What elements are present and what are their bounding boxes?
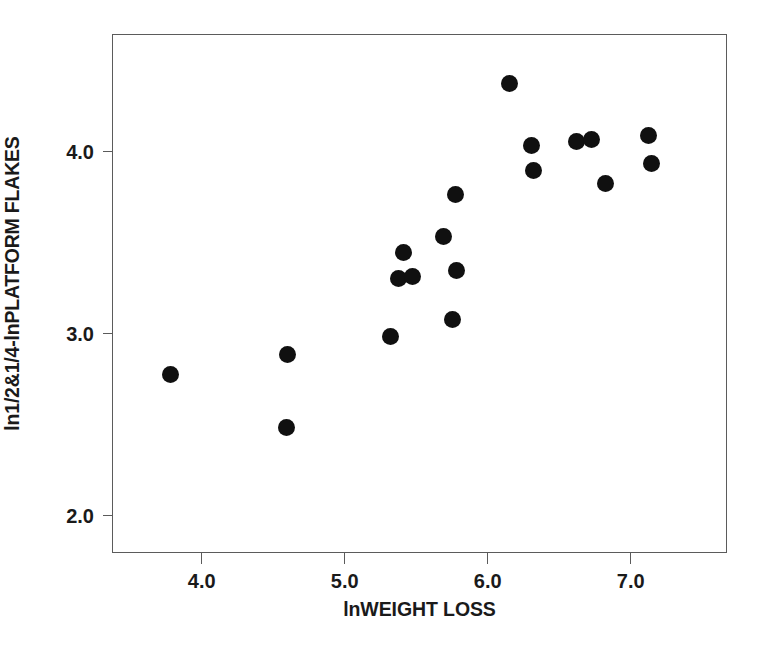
x-tick-mark: 4.0 [201, 553, 202, 564]
x-tick-mark: 5.0 [344, 553, 345, 564]
y-tick-label: 2.0 [66, 504, 103, 527]
y-tick-mark: 4.0 [103, 151, 113, 152]
x-tick-label: 6.0 [474, 564, 502, 593]
y-tick-label: 3.0 [66, 322, 103, 345]
x-tick-label: 5.0 [331, 564, 359, 593]
x-axis-label: lnWEIGHT LOSS [112, 598, 727, 621]
x-tick-mark: 7.0 [630, 553, 631, 564]
y-tick-label: 4.0 [66, 140, 103, 163]
x-tick-mark: 6.0 [487, 553, 488, 564]
x-tick-label: 7.0 [617, 564, 645, 593]
x-tick-label: 4.0 [188, 564, 216, 593]
y-axis-label: ln1/2&1/4-lnPLATFORM FLAKES [1, 0, 24, 584]
plot-frame [112, 34, 727, 553]
scatter-plot-figure: 4.03.02.0 4.05.06.07.0 ln1/2&1/4-lnPLATF… [0, 0, 776, 648]
y-tick-mark: 2.0 [103, 515, 113, 516]
y-tick-mark: 3.0 [103, 333, 113, 334]
